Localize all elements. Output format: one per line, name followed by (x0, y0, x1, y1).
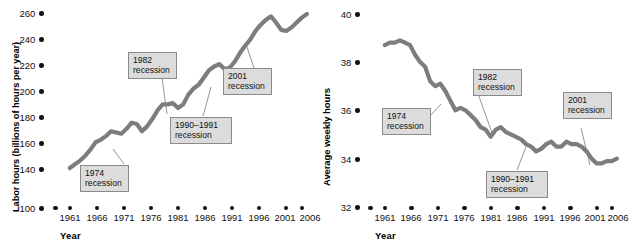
leader-line-1990-1991 (203, 87, 211, 116)
callout-1974-recession: 1974 recession (80, 165, 129, 192)
chart-panel-labor-hours: Labor hours (billions of hours per year)… (0, 0, 310, 250)
chart-panel-average-weekly-hours: Average weekly hours 40 38 36 34 32 1961… (310, 0, 617, 250)
callout-1990-1991-recession: 1990–1991 recession (170, 117, 232, 144)
plot-area-labor-hours (0, 0, 310, 250)
plot-area-average-weekly-hours (310, 0, 617, 250)
callout-2001-recession: 2001 recession (563, 92, 612, 119)
callout-1990-1991-recession: 1990–1991 recession (486, 171, 548, 198)
callout-2001-recession: 2001 recession (223, 68, 272, 95)
leader-line-2001 (246, 44, 254, 68)
callout-1974-recession: 1974 recession (382, 108, 431, 135)
callout-1982-recession: 1982 recession (473, 69, 522, 96)
leader-line-1990-1991 (517, 147, 526, 170)
callout-1982-recession: 1982 recession (128, 52, 177, 79)
leader-line-1974 (113, 149, 124, 164)
leader-line-1974 (431, 104, 441, 115)
